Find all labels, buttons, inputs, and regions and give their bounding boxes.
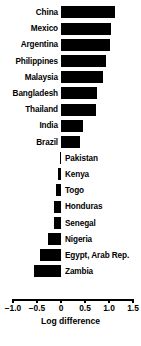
axis-title: Log difference	[0, 317, 141, 326]
bar	[58, 168, 61, 180]
bar-row: Togo	[0, 183, 141, 199]
bar	[61, 71, 103, 83]
bar-category-label: Pakistan	[65, 155, 98, 163]
bar	[54, 217, 61, 229]
bar	[61, 120, 83, 132]
bar-category-label: Togo	[65, 187, 84, 195]
bar-category-label: Philippines	[15, 58, 58, 66]
bar-row: Pakistan	[0, 151, 141, 167]
bar	[61, 104, 96, 116]
axis-line	[13, 299, 134, 301]
bar-category-label: Argentina	[21, 41, 58, 49]
bar	[61, 39, 110, 51]
bar-row: Kenya	[0, 167, 141, 183]
bar-row: India	[0, 118, 141, 134]
bar-category-label: Egypt, Arab Rep.	[65, 252, 129, 260]
bar	[61, 87, 97, 99]
axis-tick-label: 0	[59, 304, 64, 312]
bar-category-label: Honduras	[65, 203, 102, 211]
bar-category-label: Brazil	[36, 138, 58, 146]
bar-row: Brazil	[0, 135, 141, 151]
bar-category-label: Bangladesh	[13, 90, 58, 98]
bar-category-label: Senegal	[65, 219, 96, 227]
bar-row: Senegal	[0, 215, 141, 231]
bar-row: Nigeria	[0, 232, 141, 248]
bar	[40, 249, 61, 261]
axis-tick-label: 1.0	[103, 304, 115, 312]
plot-area: ChinaMexicoArgentinaPhilippinesMalaysiaB…	[0, 5, 141, 297]
bar	[60, 152, 61, 164]
axis-tick-label: −1.0	[5, 304, 22, 312]
bar	[61, 6, 115, 18]
bar-row: Zambia	[0, 264, 141, 280]
bar-row: China	[0, 5, 141, 21]
bar-row: Philippines	[0, 54, 141, 70]
bar-row: Thailand	[0, 102, 141, 118]
bar	[61, 136, 80, 148]
bar-category-label: Nigeria	[65, 236, 92, 244]
bar-category-label: Malaysia	[25, 74, 58, 82]
bar	[54, 201, 61, 213]
bar-category-label: India	[39, 122, 58, 130]
bar	[56, 184, 61, 196]
bar-category-label: Zambia	[65, 268, 93, 276]
log-difference-bar-chart: ChinaMexicoArgentinaPhilippinesMalaysiaB…	[0, 0, 141, 346]
x-axis: Log difference −1.0−0.500.51.01.5	[0, 297, 141, 346]
bar	[61, 55, 106, 67]
bar	[34, 265, 61, 277]
bar-row: Malaysia	[0, 70, 141, 86]
bar-category-label: Mexico	[31, 25, 58, 33]
axis-tick-label: 1.5	[127, 304, 139, 312]
bar-category-label: China	[36, 9, 58, 17]
bar-category-label: Kenya	[65, 171, 89, 179]
axis-tick-label: 0.5	[79, 304, 91, 312]
bar	[48, 233, 61, 245]
bar-row: Honduras	[0, 199, 141, 215]
bar-row: Bangladesh	[0, 86, 141, 102]
axis-tick-label: −0.5	[29, 304, 46, 312]
bar-category-label: Thailand	[25, 106, 58, 114]
bar-row: Mexico	[0, 21, 141, 37]
bar-row: Argentina	[0, 37, 141, 53]
bar-row: Egypt, Arab Rep.	[0, 248, 141, 264]
bar	[61, 23, 111, 35]
